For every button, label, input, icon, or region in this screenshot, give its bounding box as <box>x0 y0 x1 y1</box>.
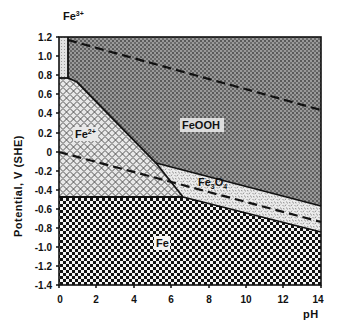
svg-text:-0.4: -0.4 <box>35 185 53 196</box>
svg-text:-0.8: -0.8 <box>35 223 53 234</box>
svg-text:8: 8 <box>206 294 212 305</box>
svg-text:-0.2: -0.2 <box>35 166 53 177</box>
x-tick-labels: 0 2 4 6 8 10 12 14 <box>57 294 324 305</box>
svg-text:14: 14 <box>312 294 324 305</box>
svg-text:2: 2 <box>93 294 99 305</box>
region-fe3 <box>59 37 68 78</box>
svg-text:0: 0 <box>46 147 52 158</box>
label-fe2: Fe2+ <box>73 127 98 141</box>
svg-text:-0.6: -0.6 <box>35 204 53 215</box>
svg-text:0.8: 0.8 <box>38 70 52 81</box>
svg-text:-1.4: -1.4 <box>35 280 53 291</box>
label-fe: Fe <box>154 236 170 250</box>
label-fe3: Fe3+ <box>63 10 84 22</box>
y-axis-title: Potential, V (SHE) <box>12 135 24 237</box>
svg-text:0.6: 0.6 <box>38 89 52 100</box>
svg-text:12: 12 <box>277 294 289 305</box>
svg-text:1.2: 1.2 <box>38 32 52 43</box>
label-feooh: FeOOH <box>180 118 224 132</box>
svg-text:-1.2: -1.2 <box>35 261 53 272</box>
y-tick-labels: 1.2 1.0 0.8 0.6 0.4 0.2 0 -0.2 -0.4 -0.6… <box>35 32 53 291</box>
svg-text:0.2: 0.2 <box>38 128 52 139</box>
svg-text:Fe: Fe <box>156 237 169 249</box>
svg-text:FeOOH: FeOOH <box>182 119 220 131</box>
svg-text:1.0: 1.0 <box>38 51 52 62</box>
x-axis-title: pH <box>303 308 319 320</box>
svg-text:0.4: 0.4 <box>38 108 52 119</box>
pourbaix-diagram: 1.2 1.0 0.8 0.6 0.4 0.2 0 -0.2 -0.4 -0.6… <box>0 0 340 327</box>
svg-text:0: 0 <box>57 294 63 305</box>
svg-text:10: 10 <box>240 294 252 305</box>
svg-text:4: 4 <box>131 294 137 305</box>
svg-text:6: 6 <box>168 294 174 305</box>
svg-text:-1.0: -1.0 <box>35 242 53 253</box>
